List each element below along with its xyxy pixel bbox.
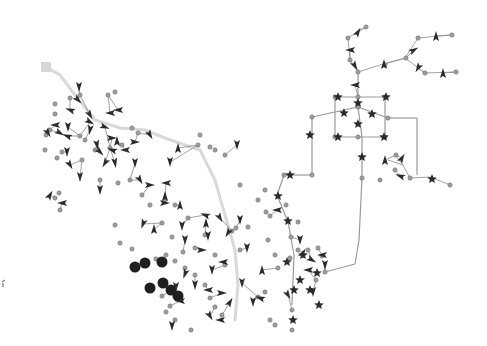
arrow-marker-icon[interactable] (76, 82, 82, 92)
junction-node[interactable] (306, 248, 310, 252)
arrow-marker-icon[interactable] (283, 289, 293, 301)
star-node-icon[interactable] (288, 315, 298, 324)
junction-node[interactable] (186, 216, 190, 220)
junction-node[interactable] (120, 143, 124, 147)
junction-node[interactable] (213, 305, 217, 309)
junction-node[interactable] (296, 248, 300, 252)
arrow-marker-icon[interactable] (209, 265, 215, 275)
junction-node[interactable] (98, 178, 102, 182)
junction-node[interactable] (416, 36, 420, 40)
arrow-marker-icon[interactable] (132, 158, 138, 168)
arrow-marker-icon[interactable] (250, 297, 256, 307)
arrow-marker-icon[interactable] (77, 172, 83, 182)
junction-node[interactable] (356, 135, 360, 139)
arrow-marker-icon[interactable] (113, 107, 123, 113)
junction-node[interactable] (53, 196, 57, 200)
junction-node[interactable] (223, 153, 227, 157)
junction-node[interactable] (164, 310, 168, 314)
junction-node[interactable] (78, 134, 82, 138)
arrow-marker-icon[interactable] (65, 122, 71, 132)
star-node-icon[interactable] (295, 275, 305, 284)
large-circle-node[interactable] (157, 257, 168, 268)
junction-node[interactable] (314, 278, 318, 282)
junction-node[interactable] (173, 259, 177, 263)
junction-node[interactable] (289, 235, 293, 239)
junction-node[interactable] (454, 70, 458, 74)
junction-node[interactable] (128, 178, 132, 182)
junction-node[interactable] (140, 193, 144, 197)
junction-node[interactable] (273, 323, 277, 327)
arrow-marker-icon[interactable] (353, 26, 363, 38)
junction-node[interactable] (423, 71, 427, 75)
junction-node[interactable] (43, 148, 47, 152)
arrow-marker-icon[interactable] (197, 247, 207, 253)
star-node-icon[interactable] (381, 92, 391, 101)
junction-node[interactable] (346, 36, 350, 40)
junction-node[interactable] (183, 266, 187, 270)
arrow-marker-icon[interactable] (180, 268, 189, 279)
junction-node[interactable] (268, 214, 272, 218)
junction-node[interactable] (106, 93, 110, 97)
arrow-marker-icon[interactable] (225, 296, 235, 308)
junction-node[interactable] (213, 253, 217, 257)
arrow-marker-icon[interactable] (111, 158, 119, 169)
junction-node[interactable] (53, 102, 57, 106)
arrow-marker-icon[interactable] (57, 200, 67, 206)
arrow-marker-icon[interactable] (382, 155, 388, 165)
arrow-marker-icon[interactable] (397, 152, 407, 164)
junction-node[interactable] (173, 203, 177, 207)
junction-node[interactable] (284, 203, 288, 207)
arrow-marker-icon[interactable] (169, 321, 175, 331)
junction-node[interactable] (173, 318, 177, 322)
junction-node[interactable] (296, 220, 300, 224)
arrow-marker-icon[interactable] (217, 290, 227, 296)
star-node-icon[interactable] (314, 300, 324, 309)
arrow-marker-icon[interactable] (205, 310, 215, 322)
junction-node[interactable] (282, 173, 286, 177)
junction-node[interactable] (263, 188, 267, 192)
arrow-marker-icon[interactable] (167, 157, 173, 167)
arrow-marker-icon[interactable] (145, 182, 155, 188)
junction-node[interactable] (310, 115, 314, 119)
junction-node[interactable] (290, 308, 294, 312)
junction-node[interactable] (360, 176, 364, 180)
junction-node[interactable] (136, 131, 140, 135)
arrow-marker-icon[interactable] (179, 221, 185, 231)
arrow-marker-icon[interactable] (120, 147, 130, 153)
junction-node[interactable] (208, 145, 212, 149)
junction-node[interactable] (170, 235, 174, 239)
junction-node[interactable] (181, 250, 185, 254)
junction-node[interactable] (113, 90, 117, 94)
arrow-marker-icon[interactable] (100, 157, 110, 169)
arrow-marker-icon[interactable] (203, 287, 213, 293)
star-node-icon[interactable] (427, 174, 437, 183)
junction-node[interactable] (203, 283, 207, 287)
junction-node[interactable] (148, 203, 152, 207)
junction-node[interactable] (55, 156, 59, 160)
junction-node[interactable] (268, 318, 272, 322)
arrow-marker-icon[interactable] (61, 131, 72, 140)
root-square-node[interactable] (41, 62, 51, 72)
junction-node[interactable] (276, 266, 280, 270)
arrow-marker-icon[interactable] (272, 207, 282, 213)
junction-node[interactable] (168, 304, 172, 308)
arrow-marker-icon[interactable] (199, 210, 210, 219)
star-node-icon[interactable] (285, 170, 295, 179)
junction-node[interactable] (386, 116, 390, 120)
junction-node[interactable] (404, 56, 408, 60)
arrow-marker-icon[interactable] (65, 159, 75, 171)
junction-node[interactable] (323, 270, 327, 274)
junction-node[interactable] (113, 223, 117, 227)
arrow-marker-icon[interactable] (306, 255, 318, 265)
junction-node[interactable] (160, 221, 164, 225)
junction-node[interactable] (130, 126, 134, 130)
arrow-marker-icon[interactable] (182, 235, 188, 245)
junction-node[interactable] (290, 328, 294, 332)
junction-node[interactable] (208, 296, 212, 300)
large-circle-node[interactable] (145, 283, 156, 294)
arrow-marker-icon[interactable] (54, 128, 66, 138)
star-node-icon[interactable] (353, 119, 363, 128)
arrow-marker-icon[interactable] (215, 317, 225, 323)
junction-node[interactable] (310, 173, 314, 177)
arrow-marker-icon[interactable] (322, 260, 328, 270)
